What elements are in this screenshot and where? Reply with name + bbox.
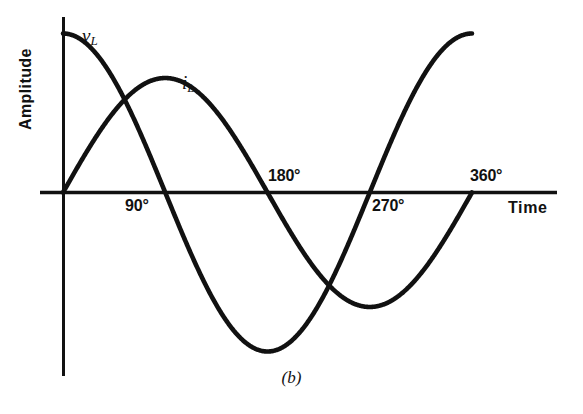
vl-curve-label: vL: [82, 26, 98, 45]
il-curve-subscript: L: [187, 80, 194, 95]
tick-label-360-degrees: 360°: [470, 168, 502, 184]
figure-canvas: vL iL 90° 180° 270° 360° Time Amplitude …: [0, 0, 583, 414]
tick-label-90-degrees: 90°: [125, 198, 149, 214]
tick-label-270-degrees: 270°: [372, 198, 404, 214]
tick-label-180-degrees: 180°: [268, 168, 300, 184]
il-curve-label: iL: [182, 73, 195, 92]
waveform-plot: [0, 0, 583, 414]
vl-curve-subscript: L: [90, 33, 97, 48]
x-axis-title: Time: [508, 200, 547, 216]
figure-caption: (b): [0, 368, 583, 388]
y-axis-title: Amplitude: [18, 48, 34, 130]
